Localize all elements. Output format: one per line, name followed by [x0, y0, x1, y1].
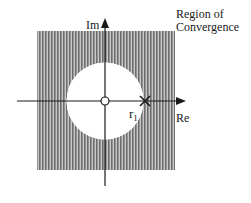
roc-diagram: Im Re r1 Region of Convergence: [0, 0, 251, 203]
real-axis-label: Re: [176, 111, 189, 125]
roc-title-line1: Region of: [176, 7, 224, 21]
imag-axis-label: Im: [86, 18, 100, 32]
zero-marker-icon: [101, 97, 109, 105]
real-axis-arrow-icon: [176, 97, 186, 105]
roc-title-line2: Convergence: [176, 20, 239, 34]
pole-label-sub: 1: [133, 113, 138, 123]
imag-axis-arrow-icon: [101, 18, 109, 28]
